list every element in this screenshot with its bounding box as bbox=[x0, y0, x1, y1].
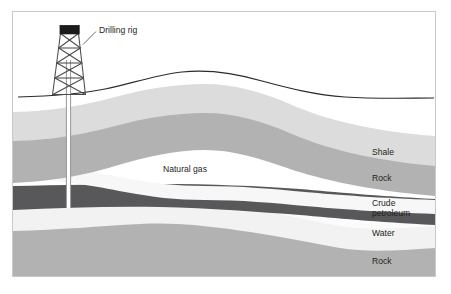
natural-gas-label: Natural gas bbox=[163, 164, 207, 174]
borehole-pipe-group bbox=[66, 60, 71, 208]
side-label-crude: Crude bbox=[372, 198, 396, 208]
geology-cross-section-figure: Drilling rig Natural gas Shale Rock Crud… bbox=[0, 0, 451, 294]
side-label-shale: Shale bbox=[372, 147, 394, 157]
diagram-canvas: Drilling rig Natural gas Shale Rock Crud… bbox=[0, 0, 451, 294]
derrick-crown-cap bbox=[60, 26, 79, 34]
side-label-rock-lower: Rock bbox=[372, 256, 392, 266]
side-label-rock-upper: Rock bbox=[372, 173, 392, 183]
drilling-rig-label: Drilling rig bbox=[99, 25, 137, 35]
side-label-petroleum: petroleum bbox=[372, 208, 410, 218]
side-label-water: Water bbox=[372, 228, 395, 238]
